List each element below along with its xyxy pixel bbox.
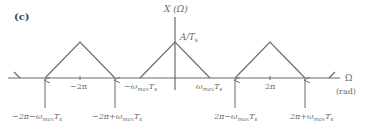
- arrow-label-2: −2π+ωmaxTs: [92, 112, 142, 122]
- triangle-neg-2pi: [45, 42, 115, 78]
- x-axis-unit: (rad): [336, 87, 356, 96]
- spectrum-diagram: (c) X (Ω) A/Ts Ω (rad) −2π 2π −ωmaxTs ωm…: [0, 0, 365, 129]
- y-axis-label: X (Ω): [163, 4, 188, 14]
- triangle-pos-2pi: [235, 42, 305, 78]
- partial-triangle-left: [14, 72, 20, 78]
- tick-label-neg-2pi: −2π: [70, 82, 87, 91]
- partial-triangle-right: [329, 72, 335, 78]
- tick-label-neg-wmax: −ωmaxTs: [124, 82, 157, 92]
- arrow-label-4: 2π+ωmaxTs: [289, 112, 334, 122]
- peak-label: A/Ts: [179, 32, 198, 43]
- arrow-label-1: −2π−ωmaxTs: [12, 112, 62, 122]
- x-axis-label: Ω: [345, 73, 352, 83]
- arrow-label-3: 2π−ωmaxTs: [213, 112, 258, 122]
- tick-label-pos-2pi: 2π: [265, 82, 275, 91]
- tick-label-pos-wmax: ωmaxTs: [196, 82, 222, 92]
- panel-label: (c): [14, 11, 30, 22]
